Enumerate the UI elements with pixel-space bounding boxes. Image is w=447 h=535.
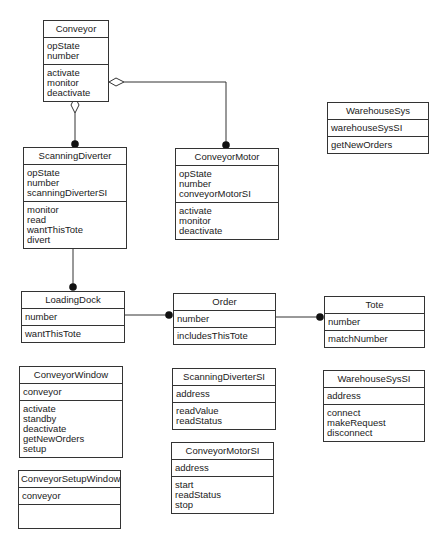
attribute: number <box>177 314 272 324</box>
operations-section <box>19 505 120 528</box>
class-name: ConveyorMotorSI <box>172 443 273 460</box>
attributes-section: address <box>173 386 275 403</box>
operation: matchNumber <box>328 334 421 344</box>
attributes-section: number <box>174 311 275 328</box>
operation: wantThisTote <box>25 329 121 339</box>
operations-section: connectmakeRequestdisconnect <box>324 405 424 441</box>
operation: deactivate <box>179 226 275 236</box>
class-name: WarehouseSysSI <box>324 371 424 388</box>
attributes-section: warehouseSysSI <box>328 120 428 137</box>
attributes-section: number <box>325 314 424 331</box>
class-name: WarehouseSys <box>328 103 428 120</box>
class-name: ConveyorMotor <box>176 149 278 166</box>
class-box-order: OrdernumberincludesThisTote <box>173 293 276 345</box>
attribute: number <box>47 51 105 61</box>
attributes-section: conveyor <box>19 488 120 505</box>
class-box-warehouse-sys: WarehouseSyswarehouseSysSIgetNewOrders <box>327 102 429 154</box>
attribute: number <box>25 312 121 322</box>
operations-section: wantThisTote <box>22 326 124 342</box>
class-box-conveyor-motor: ConveyorMotoropStatenumberconveyorMotorS… <box>175 148 279 240</box>
class-box-loading-dock: LoadingDocknumberwantThisTote <box>21 291 125 343</box>
multiplicity-dot-icon <box>316 313 324 321</box>
operation: disconnect <box>327 428 421 438</box>
attribute: address <box>176 389 272 399</box>
attribute: warehouseSysSI <box>331 123 425 133</box>
aggregation-diamond-icon <box>109 78 124 86</box>
attribute: number <box>328 317 421 327</box>
attributes-section: conveyor <box>20 384 122 401</box>
attribute: address <box>175 463 270 473</box>
operation: divert <box>27 235 123 245</box>
class-diagram-canvas: ConveyoropStatenumberactivatemonitordeac… <box>0 0 447 535</box>
attributes-section: address <box>324 388 424 405</box>
class-box-conveyor: ConveyoropStatenumberactivatemonitordeac… <box>43 20 109 102</box>
operations-section: activatestandbydeactivategetNewOrdersset… <box>20 401 122 457</box>
operation: includesThisTote <box>177 331 272 341</box>
operations-section: readValuereadStatus <box>173 403 275 429</box>
class-box-scanning-diverter: ScanningDiverteropStatenumberscanningDiv… <box>23 147 127 249</box>
attribute: conveyor <box>22 491 117 501</box>
operation: stop <box>175 500 270 510</box>
aggregation-line-conveyor-motor <box>124 82 226 144</box>
class-name: ScanningDiverterSI <box>173 369 275 386</box>
operation: deactivate <box>47 88 105 98</box>
multiplicity-dot-icon <box>165 311 173 319</box>
operations-section: activatemonitordeactivate <box>44 65 108 101</box>
attributes-section: number <box>22 309 124 326</box>
class-name: LoadingDock <box>22 292 124 309</box>
class-box-conveyor-window: ConveyorWindowconveyoractivatestandbydea… <box>19 366 123 458</box>
operations-section: monitorreadwantThisTotedivert <box>24 202 126 248</box>
attributes-section: address <box>172 460 273 477</box>
operations-section: getNewOrders <box>328 137 428 153</box>
class-box-conveyor-motor-s-i: ConveyorMotorSIaddressstartreadStatussto… <box>171 442 274 514</box>
class-box-warehouse-sys-s-i: WarehouseSysSIaddressconnectmakeRequestd… <box>323 370 425 442</box>
attributes-section: opStatenumberscanningDiverterSI <box>24 165 126 202</box>
attribute: scanningDiverterSI <box>27 188 123 198</box>
class-box-scanning-diverter-s-i: ScanningDiverterSIaddressreadValuereadSt… <box>172 368 276 430</box>
operation: setup <box>23 444 119 454</box>
operation: readStatus <box>176 416 272 426</box>
operations-section: activatemonitordeactivate <box>176 203 278 239</box>
attribute: conveyor <box>23 387 119 397</box>
operation: getNewOrders <box>331 140 425 150</box>
attributes-section: opStatenumberconveyorMotorSI <box>176 166 278 203</box>
class-name: ConveyorSetupWindow <box>19 471 120 488</box>
class-box-tote: TotenumbermatchNumber <box>324 296 425 348</box>
class-name: Conveyor <box>44 21 108 38</box>
class-name: ScanningDiverter <box>24 148 126 165</box>
class-box-conveyor-setup-window: ConveyorSetupWindowconveyor <box>18 470 121 529</box>
operations-section: startreadStatusstop <box>172 477 273 513</box>
class-name: Tote <box>325 297 424 314</box>
operations-section: includesThisTote <box>174 328 275 344</box>
attribute: conveyorMotorSI <box>179 189 275 199</box>
class-name: Order <box>174 294 275 311</box>
class-name: ConveyorWindow <box>20 367 122 384</box>
multiplicity-dot-icon <box>69 283 77 291</box>
attribute: address <box>327 391 421 401</box>
attributes-section: opStatenumber <box>44 38 108 65</box>
operations-section: matchNumber <box>325 331 424 347</box>
